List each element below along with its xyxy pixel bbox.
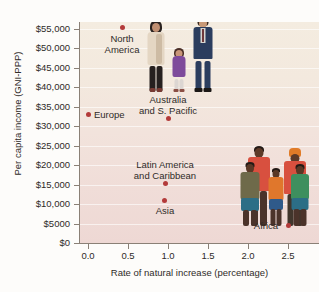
label-north-america-line2: America <box>92 44 152 55</box>
person-man-north-america <box>190 22 216 92</box>
y-tick-40000 <box>74 87 80 88</box>
person-child-north-america <box>170 48 188 92</box>
chart-figure: North America Europe Australia and S. Pa… <box>0 0 319 292</box>
y-tick-5000 <box>74 224 80 225</box>
jacket <box>173 56 186 77</box>
y-tick-10000 <box>74 204 80 205</box>
y-tick-20000 <box>74 165 80 166</box>
label-asia: Asia <box>147 205 183 216</box>
label-latin-line2: and Caribbean <box>112 170 218 181</box>
datapoint-asia[interactable] <box>162 198 167 203</box>
leg-left <box>294 209 299 226</box>
label-australia-s-pacific: Australia and S. Pacific <box>118 94 218 116</box>
y-tick-35000 <box>74 107 80 108</box>
label-north-america-line1: North <box>92 33 152 44</box>
y-axis-title: Per capita income (GNI-PPP) <box>12 29 23 199</box>
x-tick-1-0 <box>168 243 169 249</box>
person-child-africa-2 <box>266 168 286 226</box>
label-australia-line2: and S. Pacific <box>118 105 218 116</box>
x-tick-0-0 <box>88 243 89 249</box>
person-child-africa-3 <box>288 164 312 226</box>
label-latin-line1: Latin America <box>112 159 218 170</box>
datapoint-australia-s-pacific[interactable] <box>166 116 171 121</box>
x-axis-title: Rate of natural increase (percentage) <box>60 267 319 278</box>
y-tick-0 <box>74 243 80 244</box>
x-tick-label-1-5: 1.5 <box>193 250 223 261</box>
legs <box>174 76 185 92</box>
x-tick-label-0-0: 0.0 <box>73 250 103 261</box>
photo-family-north-america <box>142 22 220 92</box>
y-tick-55000 <box>74 29 80 30</box>
shirt <box>241 172 260 200</box>
leg-right <box>301 209 306 226</box>
x-tick-label-2-0: 2.0 <box>233 250 263 261</box>
shirt <box>269 177 284 201</box>
x-tick-label-2-5: 2.5 <box>273 250 303 261</box>
coat-shadow <box>156 34 162 64</box>
legs <box>149 63 164 92</box>
x-tick-label-1-0: 1.0 <box>153 250 183 261</box>
label-africa: Africa <box>246 220 286 231</box>
datapoint-latin-america-caribbean[interactable] <box>163 181 168 186</box>
y-tick-label-10000: $10,000 <box>4 199 70 209</box>
head <box>152 23 160 32</box>
x-tick-2-5 <box>288 243 289 249</box>
y-tick-45000 <box>74 68 80 69</box>
x-tick-1-5 <box>208 243 209 249</box>
x-tick-2-0 <box>248 243 249 249</box>
y-tick-label-0: $0 <box>4 238 70 248</box>
shirt <box>291 174 309 200</box>
datapoint-europe[interactable] <box>86 112 91 117</box>
label-latin-america-caribbean: Latin America and Caribbean <box>112 159 218 181</box>
person-child-africa-1 <box>238 162 262 226</box>
photo-family-africa <box>232 144 318 226</box>
y-tick-25000 <box>74 146 80 147</box>
plot-area: North America Europe Australia and S. Pa… <box>80 22 319 243</box>
legs <box>195 57 212 92</box>
datapoint-africa[interactable] <box>286 223 291 228</box>
x-axis-line <box>79 243 319 244</box>
y-axis-line <box>79 22 80 244</box>
y-tick-30000 <box>74 126 80 127</box>
label-australia-line1: Australia <box>118 94 218 105</box>
gridline-30000 <box>80 126 319 127</box>
y-tick-50000 <box>74 48 80 49</box>
legs <box>293 208 308 226</box>
y-tick-15000 <box>74 185 80 186</box>
x-tick-label-0-5: 0.5 <box>113 250 143 261</box>
x-tick-0-5 <box>128 243 129 249</box>
label-north-america: North America <box>92 33 152 55</box>
y-tick-label-5000: $5000 <box>4 219 70 229</box>
datapoint-north-america[interactable] <box>120 25 125 30</box>
